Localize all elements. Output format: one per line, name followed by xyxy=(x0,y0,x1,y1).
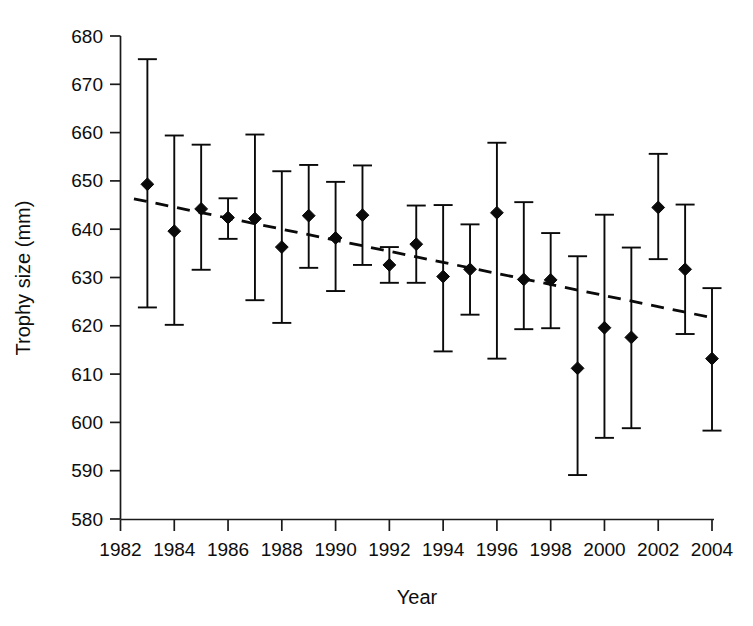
y-tick-label: 650 xyxy=(71,170,103,191)
data-point-marker xyxy=(464,263,477,276)
y-axis-tick-labels: 580590600610620630640650660670680 xyxy=(71,26,103,530)
x-tick-label: 1990 xyxy=(314,539,356,560)
data-point-marker xyxy=(302,209,315,222)
data-point-marker xyxy=(275,241,288,254)
regression-trend-line xyxy=(134,199,709,317)
x-tick-label: 1992 xyxy=(368,539,410,560)
data-point-marker xyxy=(679,263,692,276)
x-tick-label: 1984 xyxy=(153,539,196,560)
x-axis-tick-labels: 1982198419861988199019921994199619982000… xyxy=(99,539,733,560)
x-tick-label: 2000 xyxy=(583,539,625,560)
data-point-marker xyxy=(706,352,719,365)
y-tick-label: 660 xyxy=(71,122,103,143)
y-tick-label: 630 xyxy=(71,267,103,288)
data-point-marker xyxy=(571,362,584,375)
y-axis-ticks xyxy=(110,36,121,519)
chart-plot-area: 580590600610620630640650660670680 198219… xyxy=(0,0,753,626)
data-point-marker xyxy=(437,270,450,283)
axes xyxy=(121,36,715,520)
x-axis-title: Year xyxy=(397,586,438,608)
chart-figure: 580590600610620630640650660670680 198219… xyxy=(0,0,753,626)
x-tick-label: 1998 xyxy=(530,539,572,560)
data-point-marker xyxy=(410,238,423,251)
error-bar-group xyxy=(514,202,533,329)
x-tick-label: 1996 xyxy=(476,539,518,560)
x-tick-label: 1988 xyxy=(261,539,303,560)
x-tick-label: 1994 xyxy=(422,539,465,560)
x-tick-label: 1986 xyxy=(207,539,249,560)
y-axis-title: Trophy size (mm) xyxy=(12,201,34,356)
data-point-marker xyxy=(598,321,611,334)
y-tick-label: 600 xyxy=(71,412,103,433)
x-axis-ticks xyxy=(121,520,713,532)
trend-line xyxy=(134,199,709,317)
data-point-marker xyxy=(141,178,154,191)
x-tick-label: 1982 xyxy=(99,539,141,560)
data-point-marker xyxy=(356,209,369,222)
error-bars xyxy=(138,59,722,475)
y-tick-label: 680 xyxy=(71,26,103,47)
data-point-marker xyxy=(625,331,638,344)
x-tick-label: 2004 xyxy=(691,539,734,560)
data-point-marker xyxy=(491,206,504,219)
y-tick-label: 620 xyxy=(71,315,103,336)
y-tick-label: 640 xyxy=(71,219,103,240)
data-point-marker xyxy=(652,201,665,214)
y-tick-label: 670 xyxy=(71,74,103,95)
error-bar-group xyxy=(487,143,506,359)
y-tick-label: 580 xyxy=(71,509,103,530)
y-tick-label: 590 xyxy=(71,460,103,481)
data-point-marker xyxy=(383,259,396,272)
data-point-marker xyxy=(168,225,181,238)
y-tick-label: 610 xyxy=(71,364,103,385)
x-tick-label: 2002 xyxy=(637,539,679,560)
